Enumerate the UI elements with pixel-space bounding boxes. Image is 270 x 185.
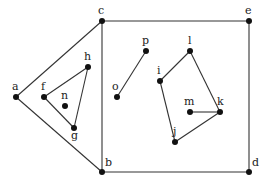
node-j <box>172 139 178 145</box>
node-b <box>99 169 105 175</box>
node-n <box>62 103 68 109</box>
graph-svg: abcdefghijklmnop <box>0 0 270 185</box>
edge-h-g <box>74 67 88 128</box>
node-k <box>217 109 223 115</box>
node-label-a: a <box>12 80 19 93</box>
labels-layer: abcdefghijklmnop <box>12 4 259 169</box>
node-label-k: k <box>217 95 224 108</box>
node-m <box>187 109 193 115</box>
node-label-b: b <box>105 156 112 169</box>
node-e <box>246 18 252 24</box>
node-label-c: c <box>98 4 104 17</box>
node-label-m: m <box>184 95 195 108</box>
node-l <box>187 48 193 54</box>
graph-diagram: abcdefghijklmnop <box>0 0 270 185</box>
node-i <box>157 78 163 84</box>
node-d <box>246 169 252 175</box>
node-h <box>85 64 91 70</box>
edge-f-g <box>44 97 74 128</box>
node-label-e: e <box>245 4 252 17</box>
node-o <box>114 94 120 100</box>
node-label-l: l <box>188 34 192 47</box>
node-label-f: f <box>41 80 46 93</box>
node-label-d: d <box>252 156 259 169</box>
node-c <box>99 18 105 24</box>
node-a <box>13 94 19 100</box>
edge-i-l <box>160 51 190 81</box>
edges-layer <box>16 21 249 172</box>
node-label-h: h <box>84 50 91 63</box>
node-label-o: o <box>112 80 119 93</box>
edge-k-j <box>175 112 220 142</box>
edge-l-k <box>190 51 220 112</box>
node-label-n: n <box>61 89 68 102</box>
edge-a-b <box>16 97 102 172</box>
node-f <box>41 94 47 100</box>
node-label-i: i <box>157 64 161 77</box>
edge-o-p <box>117 51 146 97</box>
node-p <box>143 48 149 54</box>
node-label-g: g <box>71 129 78 142</box>
node-label-p: p <box>142 34 149 47</box>
